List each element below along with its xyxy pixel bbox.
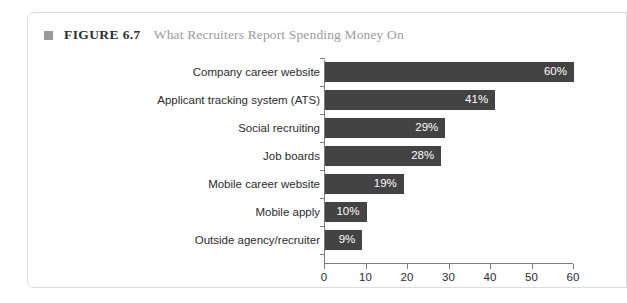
x-axis-tick-label: 40 bbox=[484, 271, 497, 283]
x-axis-tick bbox=[366, 264, 367, 269]
bar-row: 10% bbox=[325, 202, 605, 222]
bar-value-label: 41% bbox=[465, 94, 488, 106]
bar-value-label: 10% bbox=[336, 206, 359, 218]
bar-value-label: 28% bbox=[411, 150, 434, 162]
bar: 29% bbox=[325, 118, 445, 138]
bar-chart: Company career websiteApplicant tracking… bbox=[28, 13, 626, 287]
category-label: Social recruiting bbox=[128, 118, 320, 138]
x-axis-tick-label: 60 bbox=[567, 271, 580, 283]
y-axis-tick bbox=[320, 226, 325, 227]
category-label: Mobile career website bbox=[128, 174, 320, 194]
bar-row: 28% bbox=[325, 146, 605, 166]
x-axis-tick bbox=[407, 264, 408, 269]
bar-value-label: 9% bbox=[339, 234, 356, 246]
y-axis-tick bbox=[320, 170, 325, 171]
x-axis-tick-label: 10 bbox=[359, 271, 372, 283]
bar-value-label: 19% bbox=[374, 178, 397, 190]
category-label: Job boards bbox=[128, 146, 320, 166]
x-axis-tick bbox=[573, 264, 574, 269]
x-axis-tick-label: 20 bbox=[401, 271, 414, 283]
bar-row: 60% bbox=[325, 62, 605, 82]
x-axis-tick bbox=[449, 264, 450, 269]
bar-row: 9% bbox=[325, 230, 605, 250]
figure-card: FIGURE 6.7 What Recruiters Report Spendi… bbox=[27, 12, 627, 288]
y-axis-tick bbox=[320, 86, 325, 87]
y-axis-tick bbox=[320, 142, 325, 143]
category-label: Mobile apply bbox=[128, 202, 320, 222]
category-label: Outside agency/recruiter bbox=[128, 230, 320, 250]
bar: 28% bbox=[325, 146, 441, 166]
bar: 10% bbox=[325, 202, 367, 222]
bar-value-label: 60% bbox=[544, 66, 567, 78]
bar-row: 29% bbox=[325, 118, 605, 138]
bar: 19% bbox=[325, 174, 404, 194]
category-label: Applicant tracking system (ATS) bbox=[128, 90, 320, 110]
bar-series: 60%41%29%28%19%10%9% bbox=[325, 62, 605, 258]
bar: 60% bbox=[325, 62, 574, 82]
x-axis-tick-label: 0 bbox=[321, 271, 327, 283]
y-axis-tick bbox=[320, 114, 325, 115]
y-axis-tick bbox=[320, 198, 325, 199]
bar-row: 19% bbox=[325, 174, 605, 194]
category-label: Company career website bbox=[128, 62, 320, 82]
bar: 9% bbox=[325, 230, 362, 250]
bar-value-label: 29% bbox=[415, 122, 438, 134]
x-axis-tick-label: 50 bbox=[525, 271, 538, 283]
x-axis-tick-label: 30 bbox=[442, 271, 455, 283]
category-axis-labels: Company career websiteApplicant tracking… bbox=[128, 62, 320, 258]
x-axis-tick bbox=[532, 264, 533, 269]
x-axis-tick bbox=[490, 264, 491, 269]
y-axis-tick bbox=[320, 58, 325, 59]
bar: 41% bbox=[325, 90, 495, 110]
x-axis-tick bbox=[324, 264, 325, 269]
y-axis-tick bbox=[320, 254, 325, 255]
bar-row: 41% bbox=[325, 90, 605, 110]
